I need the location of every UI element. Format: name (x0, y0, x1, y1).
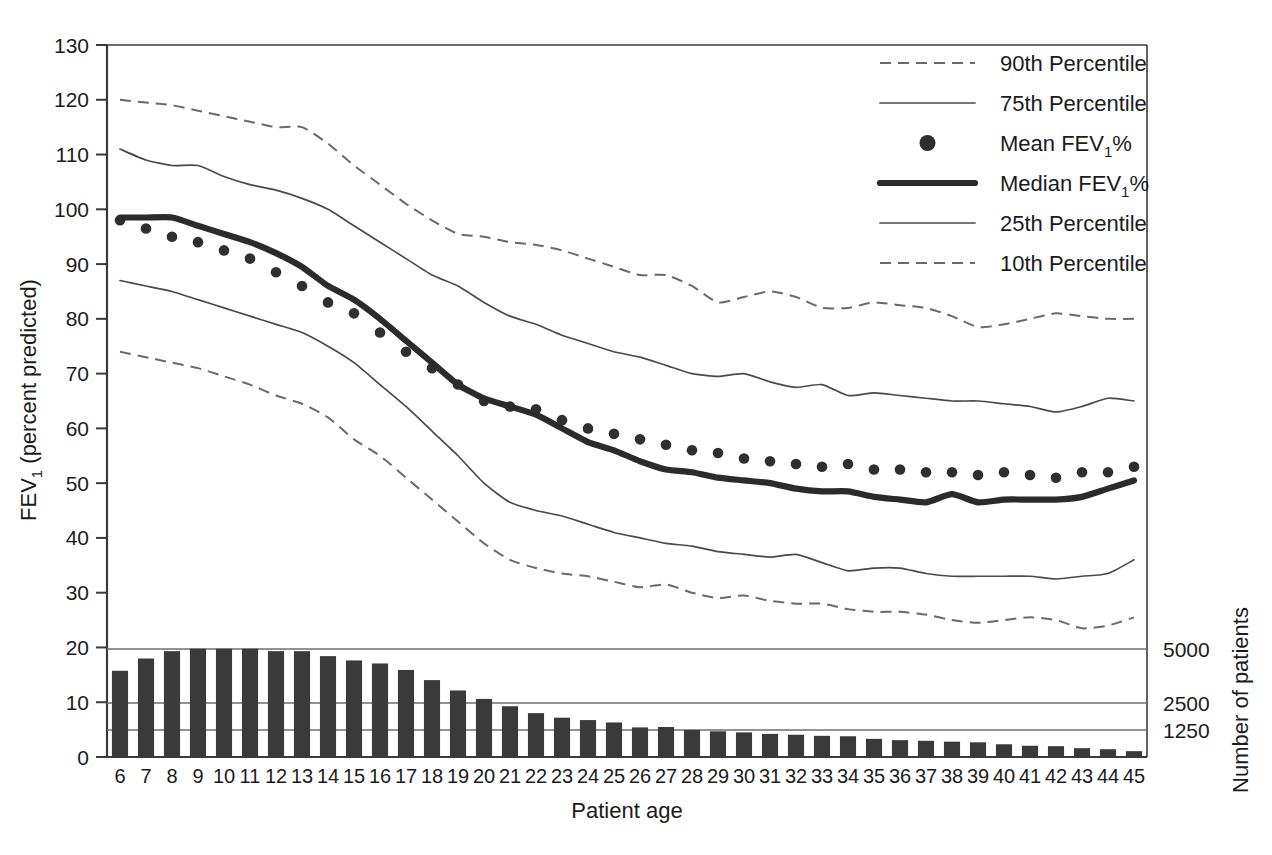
patient-count-bar (1048, 746, 1064, 757)
y-tick-label: 60 (66, 417, 89, 440)
mean-dot (947, 467, 958, 478)
x-tick-label: 23 (551, 765, 573, 787)
y-tick-label: 110 (56, 143, 89, 166)
x-axis-title: Patient age (571, 798, 682, 823)
patient-count-bar (450, 690, 466, 757)
mean-dot (765, 456, 776, 467)
mean-dot (245, 253, 256, 264)
patient-count-bar (762, 734, 778, 757)
patient-count-bar (554, 718, 570, 757)
legend-item: 90th Percentile (880, 51, 1147, 76)
y-right-tick-label: 1250 (1163, 719, 1210, 742)
patient-count-bar (1100, 749, 1116, 757)
x-tick-label: 27 (655, 765, 677, 787)
mean-dot (375, 327, 386, 338)
patient-count-bar (944, 742, 960, 757)
x-tick-label: 34 (837, 765, 859, 787)
y-tick-label: 50 (66, 472, 89, 495)
patient-count-bar (918, 741, 934, 757)
mean-dot (349, 308, 360, 319)
y-right-tick-label: 5000 (1163, 638, 1210, 661)
y-title-sub: 1 (28, 470, 45, 478)
x-tick-label: 42 (1045, 765, 1067, 787)
x-tick-label: 43 (1071, 765, 1093, 787)
mean-dot (817, 461, 828, 472)
x-tick-label: 7 (140, 765, 151, 787)
x-tick-label: 11 (240, 765, 261, 787)
x-tick-label: 18 (421, 765, 443, 787)
figure-container: 0102030405060708090100110120130 FEV1 (pe… (0, 0, 1272, 855)
series-line-75th-percentile (120, 149, 1134, 412)
x-tick-label: 28 (681, 765, 703, 787)
mean-dot (167, 231, 178, 242)
mean-dot (635, 434, 646, 445)
x-tick-label: 38 (941, 765, 963, 787)
legend-item: 25th Percentile (880, 211, 1147, 236)
mean-dot (843, 459, 854, 470)
x-tick-label: 21 (499, 765, 521, 787)
y-tick-label: 0 (77, 746, 89, 769)
y-tick-label: 20 (66, 636, 89, 659)
x-tick-label: 25 (603, 765, 625, 787)
x-tick-label: 22 (525, 765, 547, 787)
y-tick-label: 40 (66, 526, 89, 549)
patient-count-bar (658, 727, 674, 757)
y-tick-label: 130 (54, 34, 89, 57)
patient-count-bar (372, 663, 388, 757)
patient-count-bar (294, 651, 310, 757)
x-tick-label: 33 (811, 765, 833, 787)
y-tick-label: 90 (66, 253, 89, 276)
patient-count-bar (788, 735, 804, 757)
patient-count-bar (840, 736, 856, 757)
percentile-series-group (115, 100, 1140, 629)
y-axis-right-title: Number of patients (1228, 607, 1253, 793)
patient-count-bar (268, 651, 284, 757)
patient-count-bar (528, 713, 544, 757)
legend-label: Median FEV1% (1000, 171, 1149, 200)
x-tick-label: 12 (265, 765, 287, 787)
y-tick-label: 10 (66, 691, 89, 714)
patient-count-bar (736, 732, 752, 757)
patient-count-bar (138, 659, 154, 757)
legend-item: Mean FEV1% (920, 131, 1132, 160)
series-mean-dots (115, 215, 1140, 483)
series-line-90th-percentile (120, 100, 1134, 327)
patient-count-bar (606, 722, 622, 757)
patient-count-bar (164, 651, 180, 757)
series-line-median-fev1 (120, 217, 1134, 502)
y-tick-label: 70 (66, 362, 89, 385)
svg-text:FEV1 (percent predicted): FEV1 (percent predicted) (16, 279, 45, 521)
legend-label: 25th Percentile (1000, 211, 1147, 236)
series-line-10th-percentile (120, 352, 1134, 629)
y-right-title-text: Number of patients (1228, 607, 1253, 793)
x-tick-label: 14 (317, 765, 339, 787)
patient-count-bar (424, 680, 440, 757)
legend-item: 10th Percentile (880, 251, 1147, 276)
patient-count-bar (970, 742, 986, 757)
x-tick-label: 8 (166, 765, 177, 787)
x-tick-label: 13 (291, 765, 313, 787)
y-tick-label: 100 (54, 198, 89, 221)
legend-item: 75th Percentile (880, 91, 1147, 116)
x-tick-label: 26 (629, 765, 651, 787)
patient-count-bar (684, 730, 700, 757)
x-tick-label: 36 (889, 765, 911, 787)
fev1-percentile-chart: 0102030405060708090100110120130 FEV1 (pe… (0, 0, 1272, 855)
patient-count-bar (996, 744, 1012, 757)
patient-count-bar (892, 740, 908, 757)
legend-label: 90th Percentile (1000, 51, 1147, 76)
mean-dot (999, 467, 1010, 478)
x-tick-label: 20 (473, 765, 495, 787)
y-tick-label: 30 (66, 581, 89, 604)
y-axis-right-ticks: 500025001250 (1163, 638, 1210, 742)
mean-dot (271, 267, 282, 278)
patient-count-bar (112, 671, 128, 757)
patient-count-bar (190, 649, 206, 757)
y-title-tail: (percent predicted) (16, 279, 41, 470)
legend: 90th Percentile75th PercentileMean FEV1%… (880, 51, 1149, 276)
y-tick-label: 80 (66, 307, 89, 330)
mean-dot (323, 297, 334, 308)
x-axis-ticks: 6789101112131415161718192021222324252627… (114, 765, 1145, 787)
x-tick-label: 37 (915, 765, 937, 787)
x-tick-label: 24 (577, 765, 599, 787)
